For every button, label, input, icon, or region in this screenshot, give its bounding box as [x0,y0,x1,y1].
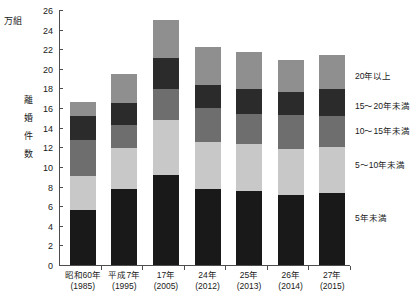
bar-4[interactable] [195,47,221,265]
bar-segment-15to20[interactable] [278,92,304,115]
bar-segment-20plus[interactable] [70,102,96,116]
bar-segment-15to20[interactable] [195,85,221,109]
bar-segment-5to10[interactable] [278,149,304,195]
chart-legend: 20年以上15～20年未満10～15年未満5～10年未満5年未満 [355,0,417,297]
bar-segment-20plus[interactable] [236,52,262,89]
bar-segment-5to10[interactable] [195,142,221,189]
y-axis-tick-mark [59,10,63,11]
bar-segment-5to10[interactable] [111,148,137,189]
bar-7[interactable] [319,55,345,265]
x-axis-line [59,265,350,266]
bar-segment-20plus[interactable] [153,20,179,58]
bar-segment-under5[interactable] [153,175,179,265]
bar-segment-10to15[interactable] [111,125,137,149]
bar-segment-15to20[interactable] [319,89,345,115]
bar-1[interactable] [70,102,96,265]
y-axis-title-char: 数 [24,150,33,159]
bar-segment-under5[interactable] [70,210,96,265]
y-axis-title: 離婚件数 [22,96,34,159]
bar-segment-20plus[interactable] [111,74,137,103]
bar-segment-under5[interactable] [236,191,262,265]
bar-segment-10to15[interactable] [70,140,96,175]
y-axis-tick-mark [59,147,63,148]
bar-2[interactable] [111,74,137,265]
bar-segment-5to10[interactable] [319,147,345,193]
y-axis-title-char: 離 [24,96,33,105]
y-axis-title-char: 婚 [24,114,33,123]
y-axis-tick-mark [59,167,63,168]
x-axis-labels: 昭和60年(1985)平成7年(1995)17年(2005)24年(2012)2… [59,270,350,296]
bar-3[interactable] [153,20,179,265]
bar-segment-10to15[interactable] [195,108,221,142]
bar-segment-20plus[interactable] [278,60,304,92]
bar-6[interactable] [278,60,304,265]
bar-segment-5to10[interactable] [70,176,96,210]
bar-5[interactable] [236,52,262,265]
bar-segment-5to10[interactable] [236,144,262,191]
bar-segment-10to15[interactable] [278,115,304,149]
y-axis-tick-mark [59,245,63,246]
y-axis-tick-mark [59,265,63,266]
y-axis-tick-mark [59,128,63,129]
y-axis-tick-mark [59,30,63,31]
bar-segment-15to20[interactable] [236,89,262,114]
bar-segment-10to15[interactable] [236,114,262,144]
bar-segment-10to15[interactable] [153,89,179,119]
bar-segment-under5[interactable] [111,189,137,265]
legend-item-1: 20年以上 [355,71,391,82]
bar-segment-20plus[interactable] [195,47,221,84]
divorce-duration-stacked-bar-chart: 万組 離婚件数 02468101214161820222426 昭和60年(19… [0,0,417,297]
bar-segment-20plus[interactable] [319,55,345,89]
y-axis-tick-mark [59,206,63,207]
y-axis-tick-mark [59,187,63,188]
y-axis-tick-mark [59,108,63,109]
bar-segment-10to15[interactable] [319,116,345,147]
legend-item-4: 5～10年未満 [355,160,405,171]
legend-item-5: 5年未満 [355,213,387,224]
y-axis-tick-mark [59,69,63,70]
y-axis-tick-mark [59,226,63,227]
legend-item-2: 15～20年未満 [355,101,410,112]
bar-segment-5to10[interactable] [153,120,179,175]
bar-segment-under5[interactable] [278,195,304,265]
bar-segment-15to20[interactable] [153,58,179,89]
bar-segment-under5[interactable] [319,193,345,265]
legend-item-3: 10～15年未満 [355,126,410,137]
y-axis-tick-mark [59,49,63,50]
y-axis-unit-caption: 万組 [4,14,22,27]
y-axis-tick-mark [59,88,63,89]
bar-segment-15to20[interactable] [111,103,137,125]
y-axis-title-char: 件 [24,132,33,141]
plot-area: 02468101214161820222426 [59,11,350,266]
bar-segment-15to20[interactable] [70,116,96,141]
bar-segment-under5[interactable] [195,189,221,265]
